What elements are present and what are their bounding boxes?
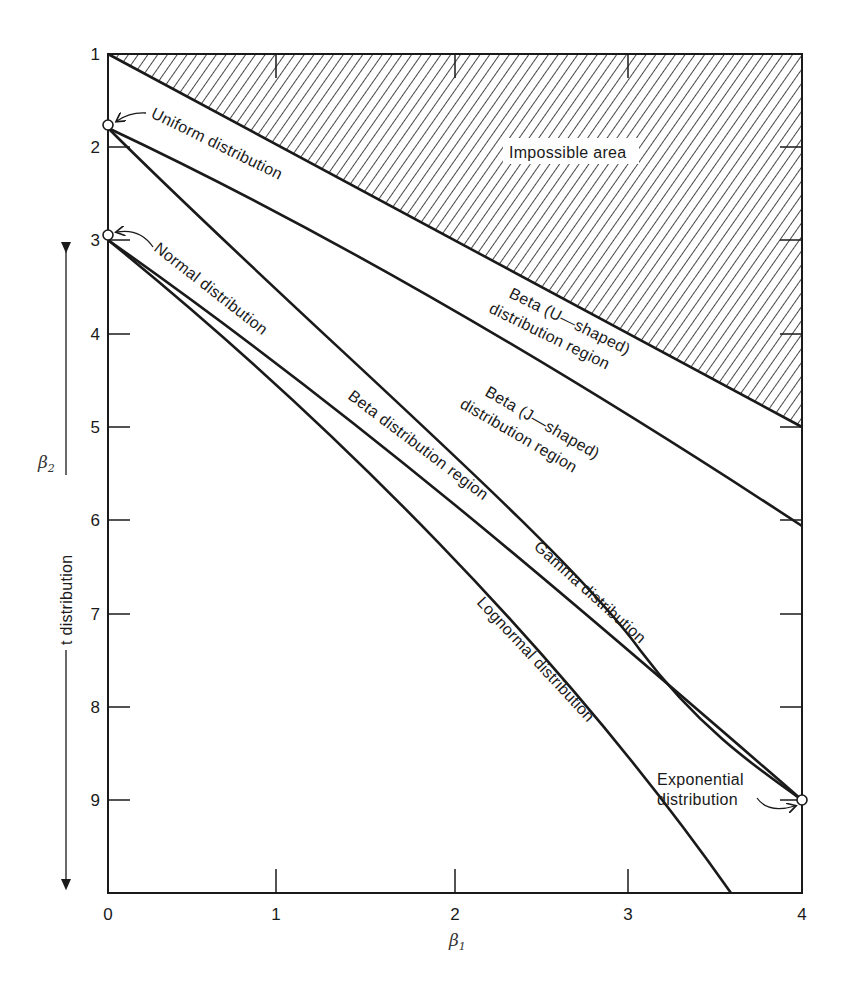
exponential-label: Exponential distribution (657, 771, 744, 808)
x-axis-title: β1 (448, 930, 466, 953)
normal-label: Normal distribution (151, 239, 271, 338)
svg-text:2: 2 (450, 905, 459, 924)
svg-text:Exponential: Exponential (657, 771, 744, 788)
y-tick-labels: 1 2 3 4 5 6 7 8 9 (91, 45, 100, 810)
svg-text:1: 1 (271, 905, 280, 924)
svg-text:7: 7 (91, 605, 100, 624)
normal-point (103, 230, 113, 240)
exponential-point (797, 795, 807, 805)
svg-text:1: 1 (91, 45, 100, 64)
uniform-pointer-arrow (117, 113, 146, 121)
x-tick-labels: 0 1 2 3 4 (103, 905, 806, 924)
t-distribution-indicator: t distribution (58, 248, 75, 885)
svg-text:2: 2 (91, 138, 100, 157)
lognormal-label: Lognormal distribution (474, 593, 598, 725)
svg-text:9: 9 (91, 791, 100, 810)
svg-text:5: 5 (91, 418, 100, 437)
svg-text:6: 6 (91, 511, 100, 530)
beta1-beta2-chart: Impossible area 1 2 3 4 5 (0, 0, 845, 991)
svg-text:4: 4 (797, 905, 806, 924)
svg-text:distribution: distribution (657, 791, 738, 808)
t-distribution-label: t distribution (58, 555, 75, 645)
svg-text:0: 0 (103, 905, 112, 924)
impossible-area-label: Impossible area (509, 144, 626, 161)
svg-text:3: 3 (623, 905, 632, 924)
y-axis-ticks (108, 147, 130, 800)
y-axis-title: β2 (37, 452, 55, 475)
uniform-point (103, 120, 113, 130)
svg-text:8: 8 (91, 698, 100, 717)
normal-pointer-arrow (117, 231, 153, 247)
gamma-label: Gamma distribution (531, 538, 649, 647)
svg-text:3: 3 (91, 231, 100, 250)
beta-j-label: Beta (J—shaped) distribution region (458, 383, 603, 476)
svg-text:4: 4 (91, 325, 100, 344)
